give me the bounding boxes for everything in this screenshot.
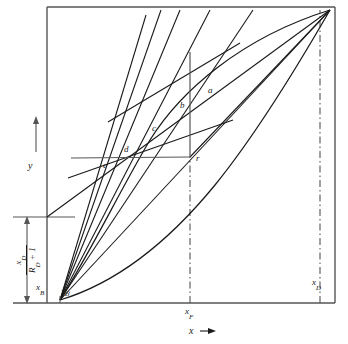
- x-axis-arrow: [200, 328, 216, 334]
- plot-frame: [13, 7, 335, 303]
- y-arrow-head: [33, 116, 39, 124]
- tie-line-lower: [68, 120, 233, 178]
- tie-line-upper: [108, 43, 240, 122]
- curve-label-a: a: [208, 86, 213, 95]
- diagram-canvas: [0, 0, 348, 344]
- rectifying-line-top: [47, 10, 330, 217]
- x-axis-label: x: [189, 326, 193, 336]
- y-axis-label: y: [28, 161, 32, 171]
- tick-label-x-sub-D: xD: [312, 278, 321, 290]
- x-arrow-head: [208, 328, 216, 334]
- tick-label-x-sub-B: xB: [36, 283, 44, 295]
- curve-label-e: e: [103, 161, 107, 170]
- curve-label-d: d: [124, 145, 129, 154]
- fraction-denominator: RD + 1: [26, 245, 40, 275]
- tie-lines: [68, 43, 240, 178]
- operating-line-b: [60, 10, 253, 300]
- operating-line-fan: [60, 10, 330, 300]
- horizontal-r-line: [71, 157, 190, 158]
- curve-label-r: r: [196, 154, 200, 163]
- mccabe-thiele-figure: a b c d e r y x xD RD + 1 xB xB xF xD: [0, 0, 348, 344]
- fraction-numerator: xD: [14, 245, 26, 275]
- curve-label-b: b: [180, 101, 185, 110]
- y-axis-arrow: [33, 116, 39, 152]
- rectifying-lines: [47, 10, 330, 217]
- curve-label-c: c: [152, 124, 156, 133]
- rectifying-line-r-to-xD: [190, 10, 330, 157]
- reference-lines: [190, 10, 320, 303]
- operating-line-a: [60, 10, 330, 300]
- y-intercept-fraction-label: xD RD + 1: [14, 245, 40, 275]
- tick-label-x-sub-F: xF: [185, 307, 193, 319]
- operating-line-e: [60, 10, 161, 300]
- operating-line-d: [60, 10, 180, 300]
